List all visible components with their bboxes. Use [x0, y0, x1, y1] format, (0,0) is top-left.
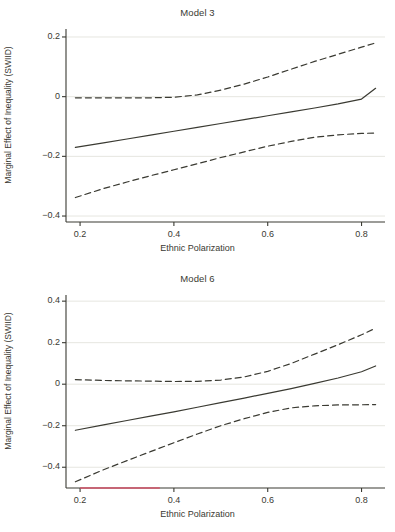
chart-panel-model6: Model 6 Marginal Effect of Inequality (S…	[0, 266, 395, 532]
y-tick-label-1: 0	[16, 91, 60, 101]
tick-marks-model6	[62, 301, 362, 492]
series-1-ci-bound	[75, 328, 375, 381]
y-tick-label-0: 0.2	[16, 31, 60, 41]
marginal-effects-figure: Model 3 Marginal Effect of Inequality (S…	[0, 0, 395, 532]
series-1-ci-bound	[75, 43, 375, 98]
series-0-estimate	[75, 366, 375, 430]
axis-lines-model6	[66, 295, 385, 488]
y-tick-label-0: 0.4	[16, 295, 60, 305]
chart-panel-model3: Model 3 Marginal Effect of Inequality (S…	[0, 0, 395, 266]
data-curves-model6	[75, 328, 375, 482]
series-2-ci-bound	[75, 405, 375, 482]
axis-lines-model3	[66, 29, 385, 222]
tick-marks-model3	[62, 37, 362, 226]
x-axis-label-model3: Ethnic Polarization	[0, 243, 395, 253]
x-tick-label-1: 0.4	[154, 229, 194, 239]
y-tick-label-3: −0.4	[16, 210, 60, 220]
gridlines-model6	[66, 301, 385, 467]
data-curves-model3	[75, 43, 375, 198]
y-tick-label-1: 0.2	[16, 337, 60, 347]
y-tick-label-2: 0	[16, 378, 60, 388]
x-tick-label-1: 0.4	[154, 495, 194, 505]
x-tick-label-0: 0.2	[60, 495, 100, 505]
plot-area-model6	[0, 266, 395, 532]
y-tick-label-3: −0.2	[16, 420, 60, 430]
series-2-ci-bound	[75, 133, 375, 197]
x-tick-label-2: 0.6	[248, 229, 288, 239]
x-tick-label-3: 0.8	[342, 495, 382, 505]
x-tick-label-0: 0.2	[60, 229, 100, 239]
x-tick-label-2: 0.6	[248, 495, 288, 505]
y-tick-label-2: −0.2	[16, 150, 60, 160]
y-tick-label-4: −0.4	[16, 461, 60, 471]
x-tick-label-3: 0.8	[342, 229, 382, 239]
x-axis-label-model6: Ethnic Polarization	[0, 509, 395, 519]
series-0-estimate	[75, 88, 375, 147]
gridlines-model3	[66, 37, 385, 216]
